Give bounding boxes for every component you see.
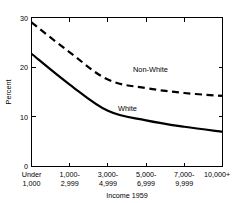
x-axis-title: Income 1959 [106, 191, 148, 200]
y-tick-label-30: 30 [20, 14, 28, 23]
series-label-non-white: Non-White [133, 65, 168, 74]
x-axis-ticks [32, 163, 223, 167]
line-chart: 0 10 20 30 Percent Under 1,000 1,000- 2,… [0, 0, 240, 203]
x-tick-label-4-line2: 9,999 [175, 179, 193, 188]
x-tick-label-0-line2: 1,000 [23, 179, 41, 188]
y-axis-title: Percent [4, 80, 13, 105]
x-tick-label-3-line2: 6,999 [137, 179, 155, 188]
y-tick-label-10: 10 [20, 113, 28, 122]
chart-figure: 0 10 20 30 Percent Under 1,000 1,000- 2,… [0, 0, 240, 203]
series-line-white [32, 54, 223, 132]
y-axis-ticks [32, 18, 36, 167]
x-tick-label-1-line2: 2,999 [61, 179, 79, 188]
y-tick-label-20: 20 [20, 63, 28, 72]
x-axis-ticks-top [70, 18, 185, 22]
x-tick-label-4-line1: 7,000- [174, 170, 195, 179]
x-tick-label-2-line2: 4,999 [99, 179, 117, 188]
series-label-white: White [118, 104, 137, 113]
y-axis-ticks-right [219, 67, 223, 117]
x-tick-label-2-line1: 3,000- [98, 170, 119, 179]
x-tick-label-1-line1: 1,000- [60, 170, 81, 179]
series-line-non-white [32, 22, 223, 96]
plot-frame [32, 18, 223, 167]
x-tick-label-0-line1: Under [22, 170, 42, 179]
x-tick-label-3-line1: 5,000- [136, 170, 157, 179]
x-tick-label-5-line1: 10,000+ [204, 170, 230, 179]
